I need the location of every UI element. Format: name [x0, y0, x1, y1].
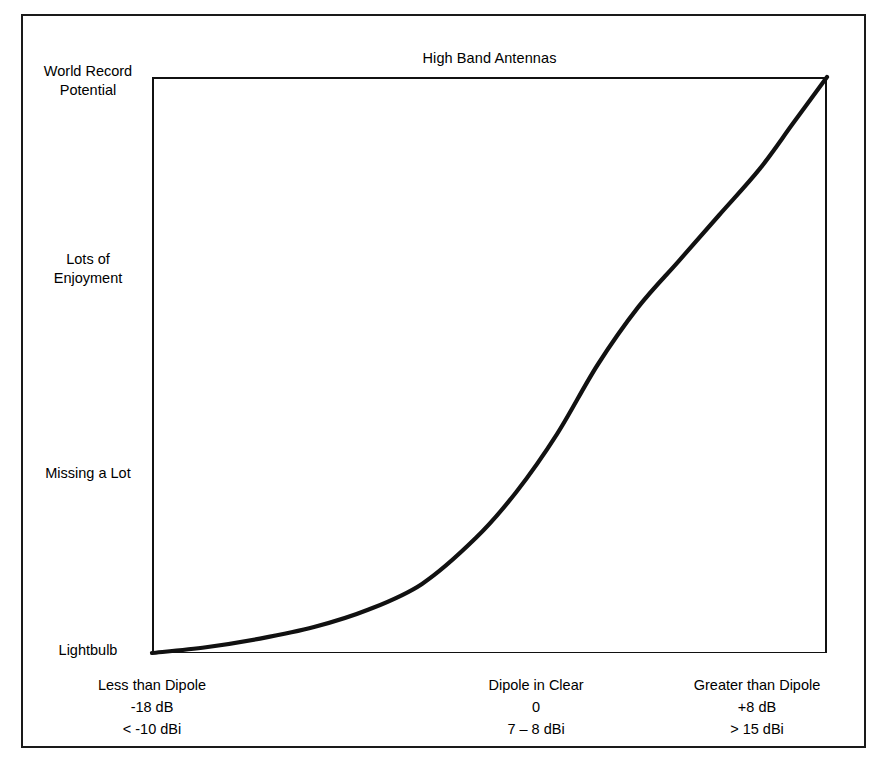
x-axis-label-greater-than-dipole-line1: Greater than Dipole: [642, 674, 872, 696]
y-axis-label-lots-of-enjoyment-line2: Enjoyment: [54, 270, 123, 286]
y-axis-label-world-record-potential: World Record Potential: [24, 62, 152, 100]
y-axis-label-world-record-potential-line1: World Record: [44, 63, 132, 79]
x-axis-label-dipole-in-clear-line1: Dipole in Clear: [421, 674, 651, 696]
y-axis-labels: World Record Potential Lots of Enjoyment…: [14, 0, 152, 771]
x-axis-label-dipole-in-clear-line2: 0: [421, 696, 651, 718]
x-axis-label-dipole-in-clear: Dipole in Clear 0 7 – 8 dBi: [421, 674, 651, 740]
chart-title: High Band Antennas: [152, 50, 827, 66]
x-axis-label-greater-than-dipole-line3: > 15 dBi: [642, 718, 872, 740]
y-axis-label-lightbulb-line1: Lightbulb: [59, 642, 118, 658]
performance-curve-svg: [152, 77, 827, 653]
x-axis-label-dipole-in-clear-line3: 7 – 8 dBi: [421, 718, 651, 740]
y-axis-label-lightbulb: Lightbulb: [24, 641, 152, 660]
page-root: High Band Antennas World Record Potentia…: [0, 0, 882, 771]
x-axis-label-greater-than-dipole-line2: +8 dB: [642, 696, 872, 718]
y-axis-label-missing-a-lot: Missing a Lot: [24, 464, 152, 483]
x-axis-label-less-than-dipole: Less than Dipole -18 dB < -10 dBi: [37, 674, 267, 740]
x-axis-label-less-than-dipole-line3: < -10 dBi: [37, 718, 267, 740]
y-axis-label-lots-of-enjoyment-line1: Lots of: [66, 251, 110, 267]
performance-curve-line: [152, 77, 827, 653]
x-axis-label-greater-than-dipole: Greater than Dipole +8 dB > 15 dBi: [642, 674, 872, 740]
x-axis-label-less-than-dipole-line1: Less than Dipole: [37, 674, 267, 696]
y-axis-label-world-record-potential-line2: Potential: [60, 82, 116, 98]
y-axis-label-missing-a-lot-line1: Missing a Lot: [45, 465, 130, 481]
x-axis-label-less-than-dipole-line2: -18 dB: [37, 696, 267, 718]
y-axis-label-lots-of-enjoyment: Lots of Enjoyment: [24, 250, 152, 288]
